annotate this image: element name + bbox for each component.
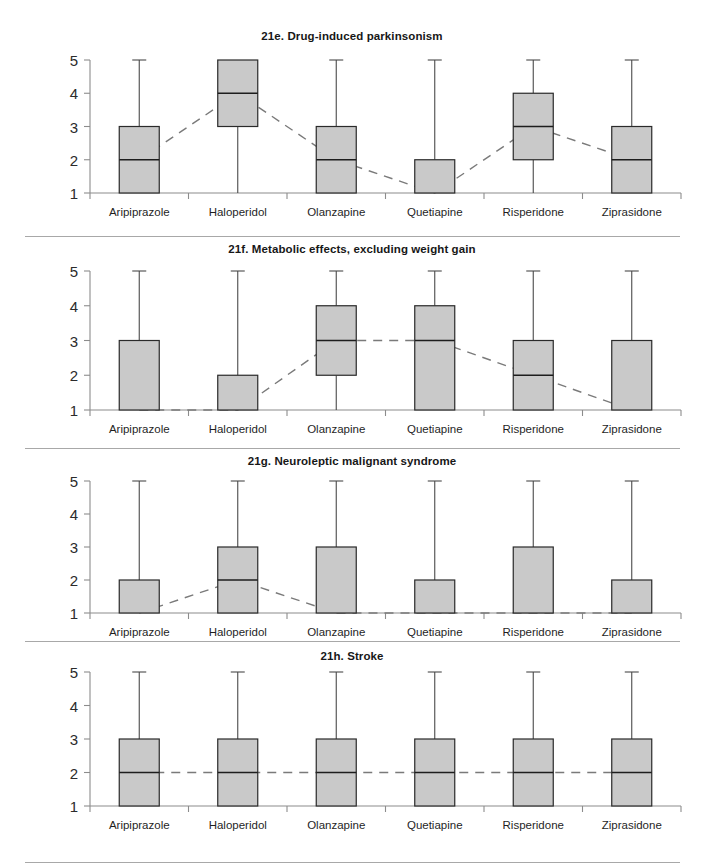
x-category-label: Ziprasidone <box>602 626 662 638</box>
median-trend-line <box>139 93 632 193</box>
boxplot-olanzapine <box>316 481 356 613</box>
x-category-label: Aripiprazole <box>109 206 170 218</box>
x-category-label: Risperidone <box>503 626 564 638</box>
y-tick-label: 5 <box>70 473 78 490</box>
x-category-label: Olanzapine <box>307 626 365 638</box>
y-tick-label: 2 <box>70 367 78 384</box>
boxplot-olanzapine <box>316 271 356 410</box>
chart-title: 21f. Metabolic effects, excluding weight… <box>0 243 704 255</box>
boxplot-quetiapine <box>415 60 455 193</box>
x-category-label: Risperidone <box>503 423 564 435</box>
x-category-label: Ziprasidone <box>602 423 662 435</box>
boxplot-quetiapine <box>415 271 455 410</box>
boxplot-quetiapine <box>415 672 455 806</box>
x-category-label: Ziprasidone <box>602 206 662 218</box>
y-tick-label: 4 <box>70 298 78 315</box>
box-body <box>415 580 455 613</box>
boxplot-aripiprazole <box>119 271 159 410</box>
x-category-label: Olanzapine <box>307 423 365 435</box>
y-tick-label: 2 <box>70 765 78 782</box>
x-category-label: Olanzapine <box>307 206 365 218</box>
x-category-label: Aripiprazole <box>109 819 170 831</box>
x-category-label: Haloperidol <box>209 423 267 435</box>
boxplot-haloperidol <box>218 271 258 410</box>
box-body <box>415 306 455 410</box>
boxplot-ziprasidone <box>612 481 652 613</box>
chart-panel-1: 21e. Drug-induced parkinsonism12345Aripi… <box>0 0 704 236</box>
box-body <box>612 580 652 613</box>
boxplot-haloperidol <box>218 481 258 613</box>
median-trend-line <box>139 580 632 613</box>
boxplot-aripiprazole <box>119 60 159 193</box>
boxplot-ziprasidone <box>612 672 652 806</box>
x-category-label: Quetiapine <box>407 206 463 218</box>
box-body <box>415 160 455 193</box>
x-category-label: Olanzapine <box>307 819 365 831</box>
chart-title: 21h. Stroke <box>0 650 704 662</box>
x-category-label: Aripiprazole <box>109 626 170 638</box>
boxplot-haloperidol <box>218 60 258 193</box>
x-category-label: Quetiapine <box>407 626 463 638</box>
median-trend-line <box>139 341 632 411</box>
y-tick-label: 5 <box>70 263 78 280</box>
plot-area: 12345AripiprazoleHaloperidolOlanzapineQu… <box>0 641 704 864</box>
x-category-label: Quetiapine <box>407 423 463 435</box>
y-tick-label: 1 <box>70 185 78 202</box>
x-category-label: Haloperidol <box>209 819 267 831</box>
y-tick-label: 3 <box>70 333 78 350</box>
plot-area: 12345AripiprazoleHaloperidolOlanzapineQu… <box>0 236 704 448</box>
box-body <box>218 375 258 410</box>
boxplot-olanzapine <box>316 672 356 806</box>
x-category-label: Quetiapine <box>407 819 463 831</box>
box-body <box>513 547 553 613</box>
boxplot-haloperidol <box>218 672 258 806</box>
boxplot-olanzapine <box>316 60 356 193</box>
boxplot-risperidone <box>513 481 553 613</box>
y-tick-label: 2 <box>70 152 78 169</box>
y-tick-label: 4 <box>70 506 78 523</box>
plot-area: 12345AripiprazoleHaloperidolOlanzapineQu… <box>0 448 704 641</box>
y-tick-label: 5 <box>70 664 78 681</box>
chart-panel-3: 21g. Neuroleptic malignant syndrome12345… <box>0 448 704 641</box>
boxplot-aripiprazole <box>119 481 159 613</box>
y-tick-label: 3 <box>70 119 78 136</box>
chart-title: 21g. Neuroleptic malignant syndrome <box>0 455 704 467</box>
boxplot-quetiapine <box>415 481 455 613</box>
x-category-label: Risperidone <box>503 819 564 831</box>
x-category-label: Haloperidol <box>209 626 267 638</box>
panel-separator <box>25 862 680 863</box>
boxplot-figure: 21e. Drug-induced parkinsonism12345Aripi… <box>0 0 704 864</box>
boxplot-risperidone <box>513 60 553 193</box>
x-category-label: Ziprasidone <box>602 819 662 831</box>
box-body <box>316 547 356 613</box>
y-tick-label: 1 <box>70 402 78 419</box>
boxplot-risperidone <box>513 271 553 410</box>
boxplot-risperidone <box>513 672 553 806</box>
chart-panel-4: 21h. Stroke12345AripiprazoleHaloperidolO… <box>0 641 704 864</box>
boxplot-ziprasidone <box>612 271 652 410</box>
box-body <box>612 341 652 411</box>
y-tick-label: 3 <box>70 731 78 748</box>
y-tick-label: 1 <box>70 798 78 815</box>
boxplot-aripiprazole <box>119 672 159 806</box>
y-tick-label: 3 <box>70 539 78 556</box>
boxplot-ziprasidone <box>612 60 652 193</box>
chart-panel-2: 21f. Metabolic effects, excluding weight… <box>0 236 704 448</box>
y-tick-label: 2 <box>70 572 78 589</box>
box-body <box>119 580 159 613</box>
y-tick-label: 4 <box>70 85 78 102</box>
chart-title: 21e. Drug-induced parkinsonism <box>0 30 704 42</box>
y-tick-label: 1 <box>70 605 78 622</box>
x-category-label: Aripiprazole <box>109 423 170 435</box>
y-tick-label: 5 <box>70 52 78 69</box>
box-body <box>119 341 159 411</box>
x-category-label: Haloperidol <box>209 206 267 218</box>
x-category-label: Risperidone <box>503 206 564 218</box>
y-tick-label: 4 <box>70 698 78 715</box>
